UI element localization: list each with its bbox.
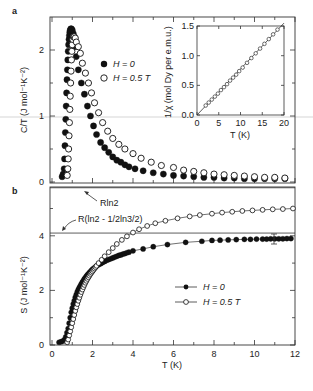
inset-xtick: 5 [216,118,221,128]
data-point-open [280,207,285,212]
data-point-open [130,151,136,157]
data-point-open [210,211,215,216]
inset-data-point [267,37,271,41]
data-point-open [67,106,73,112]
data-point-open [119,237,124,242]
data-point-open [91,100,97,106]
data-point-open [100,120,106,126]
data-point-filled [141,246,146,251]
panel-b-xtick: 6 [171,349,176,359]
data-point-open [68,57,74,63]
legend-open-circle-icon [101,75,107,81]
data-point-open [221,172,227,178]
legend-a-h0: H = 0 [113,59,135,69]
data-point-open [95,110,101,116]
data-point-filled [126,164,132,170]
panel-a-label: a [12,6,18,16]
panel-b-ytick: 2 [39,285,44,295]
inset-xtick: 10 [235,118,245,128]
panel-a-legend: H = 0 H = 0.5 T [101,59,152,83]
data-point-filled [87,113,93,119]
panel-b: 024681012024 S (J mol⁻¹K⁻²) T (K) Rln2 R… [19,187,300,370]
inset-data-point [231,76,235,80]
inset-ytick: 1.0 [181,51,194,61]
legend-b-h0: H = 0 [203,282,225,292]
data-point-open [230,209,235,214]
panel-b-data [56,206,295,345]
data-point-open [250,208,255,213]
inset-data-point [204,104,208,108]
data-point-open [187,214,192,219]
data-point-open [163,218,168,223]
inset-ytick: 1.5 [181,21,194,31]
data-point-open [75,44,81,50]
data-point-open [251,174,257,180]
data-point-filled [209,238,214,243]
inset-xtick: 15 [257,118,267,128]
data-point-open [153,221,158,226]
data-point-open [64,172,70,178]
data-point-filled [242,237,247,242]
data-point-open [260,207,265,212]
data-point-open [201,170,207,176]
inset-xlabel: T (K) [230,130,250,140]
data-point-open [88,90,94,96]
rln2-arrow-icon [86,193,97,201]
inset-chart: 051015200.00.51.01.5 1/χ (mol Dy per e.m… [163,21,289,140]
panel-a-ytick: 0 [39,177,44,187]
data-point-open [231,172,237,178]
data-point-open [220,210,225,215]
data-point-open [82,70,88,76]
data-point-filled [160,171,166,177]
data-point-open [68,68,74,74]
data-point-open [138,155,144,161]
data-point-open [66,120,72,126]
legend-filled-circle-line-icon [184,285,189,290]
figure: a b 012 C/T (J mol⁻¹K⁻²) H = 0 H = 0.5 T… [0,0,313,391]
data-point-filled [90,123,96,129]
inset-data-point [225,82,229,86]
panel-a: 012 C/T (J mol⁻¹K⁻²) H = 0 H = 0.5 T 051… [19,17,295,187]
data-point-filled [217,238,222,243]
panel-b-ytick: 0 [39,340,44,350]
data-point-filled [254,236,259,241]
data-point-open [291,206,296,211]
rln2-half-label: R(ln2 - 1/2ln3/2) [78,214,143,224]
data-point-open [114,242,119,247]
panel-b-xtick: 8 [211,349,216,359]
legend-b-h05: H = 0.5 T [203,297,242,307]
panel-a-ytick: 2 [39,45,44,55]
inset-ytick: 0.5 [181,80,194,90]
data-point-open [131,230,136,235]
panel-b-ytick: 4 [39,231,44,241]
panel-b-label: b [12,186,18,196]
rln2-annotation: Rln2 [84,191,119,208]
data-point-open [79,60,85,66]
data-point-open [77,50,83,56]
data-point-open [197,213,202,218]
data-point-filled [140,168,146,174]
data-point-filled [78,80,84,86]
data-point-filled [226,237,231,242]
data-point-open [262,174,268,180]
data-point-open [65,156,71,162]
data-point-open [125,234,130,239]
inset-data-point [210,98,214,102]
panel-b-xtick: 12 [290,349,300,359]
data-point-open [102,254,107,259]
line-h0 [59,239,291,343]
data-point-open [65,166,71,172]
data-point-filled [288,236,293,241]
data-point-open [110,246,115,251]
inset-data-point [216,92,220,96]
panel-a-ylabel: C/T (J mol⁻¹K⁻²) [19,67,29,133]
data-point-filled [150,170,156,176]
data-point-filled [84,103,90,109]
data-point-open [181,167,187,173]
data-point-open [170,164,176,170]
data-point-open [270,207,275,212]
data-point-filled [183,240,188,245]
data-point-filled [248,237,253,242]
data-point-open [211,171,217,177]
inset-data-point [254,52,258,56]
